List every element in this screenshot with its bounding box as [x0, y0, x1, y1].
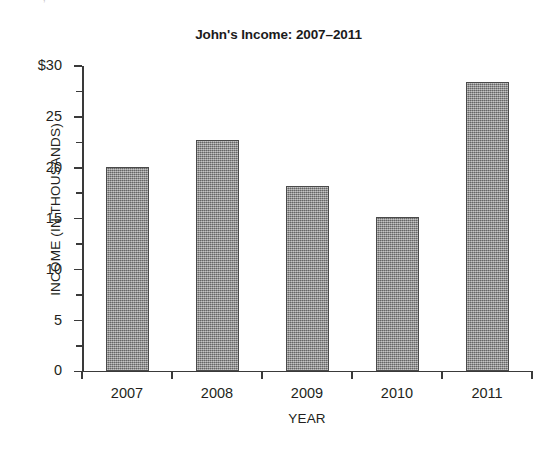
x-tick-5 [531, 371, 533, 379]
x-tick-0 [81, 371, 83, 379]
x-tick-4 [441, 371, 443, 379]
bar-chart-plot-area: 0510152025$30 20072008200920102011 INCOM… [0, 0, 557, 453]
bar-2009 [286, 186, 329, 371]
y-tick-20 [74, 167, 82, 169]
bar-2007 [106, 167, 149, 372]
x-tick-1 [171, 371, 173, 379]
y-tick-label-0: 0 [2, 363, 62, 378]
y-minor-tick-27.5 [76, 91, 82, 93]
x-tick-3 [351, 371, 353, 379]
y-tick-10 [74, 269, 82, 271]
y-minor-tick-17.5 [76, 192, 82, 194]
y-minor-tick-7.5 [76, 294, 82, 296]
y-tick-label-30: $30 [2, 58, 62, 73]
x-tick-2 [261, 371, 263, 379]
x-tick-label-2010: 2010 [352, 385, 442, 401]
y-minor-tick-12.5 [76, 243, 82, 245]
bar-2010 [376, 217, 419, 372]
y-tick-30 [74, 65, 82, 67]
y-axis-title: INCOME (IN THOUSANDS) [48, 85, 63, 335]
y-tick-5 [74, 320, 82, 322]
x-tick-label-2008: 2008 [172, 385, 262, 401]
y-axis-line [82, 66, 84, 372]
x-tick-label-2009: 2009 [262, 385, 352, 401]
bar-2008 [196, 140, 239, 371]
y-minor-tick-2.5 [76, 345, 82, 347]
x-tick-label-2011: 2011 [442, 385, 532, 401]
x-tick-label-2007: 2007 [82, 385, 172, 401]
y-tick-15 [74, 218, 82, 220]
bar-2011 [466, 82, 509, 371]
x-axis-title: YEAR [82, 411, 532, 426]
y-minor-tick-22.5 [76, 142, 82, 144]
y-tick-25 [74, 116, 82, 118]
